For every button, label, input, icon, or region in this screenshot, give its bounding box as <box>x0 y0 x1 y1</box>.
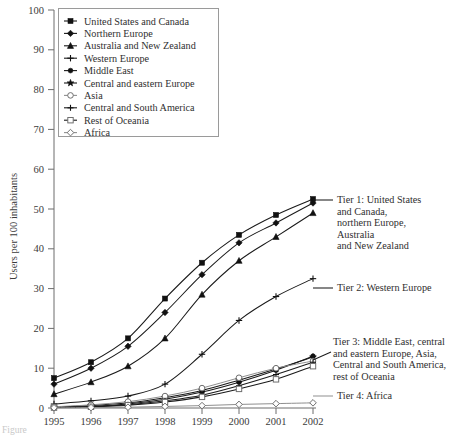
series-marker-united-states-and-canada <box>52 376 57 381</box>
annotation-tier2-line-0: Tier 2: Western Europe <box>337 282 432 293</box>
series-marker-united-states-and-canada <box>89 360 94 365</box>
legend-marker-6 <box>68 93 74 99</box>
y-tick-label: 100 <box>28 5 44 16</box>
series-marker-rest-of-oceania <box>273 377 278 382</box>
series-marker-australia-and-new-zealand <box>125 363 131 369</box>
y-tick-label: 0 <box>39 403 44 414</box>
x-axis-ticks: 19951996199719981999200020012002 <box>44 408 324 427</box>
x-tick-label: 2002 <box>303 416 324 427</box>
legend-marker-0 <box>68 19 73 24</box>
y-tick-label: 50 <box>34 204 45 215</box>
series-marker-northern-europe <box>88 365 94 371</box>
series-line-western-europe <box>54 279 313 404</box>
tier-annotations: Tier 1: United Statesand Canada,northern… <box>333 194 446 401</box>
legend-label-africa: Africa <box>84 127 110 138</box>
legend-label-northern-europe: Northern Europe <box>84 28 153 39</box>
legend-label-asia: Asia <box>84 90 103 101</box>
legend-label-united-states-and-canada: United States and Canada <box>84 16 189 27</box>
series-marker-rest-of-oceania <box>310 364 315 369</box>
legend-marker-4 <box>68 68 73 73</box>
annotation-tier3-line-3: rest of Oceania <box>333 371 395 382</box>
series-marker-united-states-and-canada <box>274 212 279 217</box>
x-tick-label: 1997 <box>118 416 139 427</box>
y-tick-label: 70 <box>34 124 45 135</box>
y-tick-label: 30 <box>34 283 45 294</box>
series-marker-australia-and-new-zealand <box>236 257 242 263</box>
caption: Figure <box>2 425 27 435</box>
figure-container: 0102030405060708090100 19951996199719981… <box>0 0 470 435</box>
x-tick-label: 1999 <box>192 416 213 427</box>
series-marker-australia-and-new-zealand <box>273 234 279 240</box>
legend-marker-8 <box>68 118 73 123</box>
legend-label-middle-east: Middle East <box>84 65 134 76</box>
series-marker-united-states-and-canada <box>126 336 131 341</box>
y-tick-label: 60 <box>34 164 45 175</box>
series-marker-africa <box>310 400 317 407</box>
y-tick-label: 80 <box>34 84 45 95</box>
y-axis-ticks: 0102030405060708090100 <box>28 5 54 414</box>
series-line-northern-europe <box>54 203 313 384</box>
legend-label-central-and-eastern-europe: Central and eastern Europe <box>84 78 195 89</box>
series-marker-asia <box>236 375 242 381</box>
annotation-tier3-line-2: Central and South America, <box>333 359 446 370</box>
annotation-tier1-line-2: northern Europe, <box>337 217 406 228</box>
line-chart: 0102030405060708090100 19951996199719981… <box>0 0 470 435</box>
annotation-tier3-line-0: Tier 3: Middle East, central <box>333 336 445 347</box>
series-marker-rest-of-oceania <box>236 386 241 391</box>
legend-label-australia-and-new-zealand: Australia and New Zealand <box>84 40 196 51</box>
annotation-tier3-line-1: and eastern Europe, Asia, <box>333 348 437 359</box>
annotation-tier4-line-0: Tier 4: Africa <box>337 390 393 401</box>
series-marker-united-states-and-canada <box>237 232 242 237</box>
legend: United States and CanadaNorthern EuropeA… <box>59 9 219 139</box>
annotation-tier1-line-4: and New Zealand <box>337 240 409 251</box>
x-tick-label: 1998 <box>155 416 176 427</box>
series-marker-northern-europe <box>51 381 57 387</box>
series-marker-asia <box>199 385 205 391</box>
series-marker-australia-and-new-zealand <box>310 210 316 216</box>
legend-label-central-and-south-america: Central and South America <box>84 102 195 113</box>
legend-label-western-europe: Western Europe <box>84 53 150 64</box>
annotation-tier1-line-3: Australia <box>337 229 375 240</box>
x-tick-label: 1996 <box>81 416 102 427</box>
series-marker-northern-europe <box>273 220 279 226</box>
x-tick-label: 1995 <box>44 416 65 427</box>
x-tick-label: 2000 <box>229 416 250 427</box>
series-marker-africa <box>273 400 280 407</box>
series-marker-asia <box>273 365 279 371</box>
series-marker-rest-of-oceania <box>199 394 204 399</box>
series-markers <box>51 197 317 412</box>
y-axis-label: Users per 100 inhabitants <box>8 173 19 280</box>
series-marker-united-states-and-canada <box>163 296 168 301</box>
series-marker-united-states-and-canada <box>200 260 205 265</box>
y-tick-label: 90 <box>34 44 45 55</box>
x-tick-label: 2001 <box>266 416 287 427</box>
y-tick-label: 10 <box>34 363 45 374</box>
y-tick-label: 40 <box>34 243 45 254</box>
y-tick-label: 20 <box>34 323 45 334</box>
annotation-tier1-line-0: Tier 1: United States <box>337 194 421 205</box>
series-line-rest-of-oceania <box>54 366 313 407</box>
legend-label-rest-of-oceania: Rest of Oceania <box>84 115 150 126</box>
annotation-tier1-line-1: and Canada, <box>337 206 387 217</box>
series-marker-africa <box>236 401 243 408</box>
series-line-united-states-and-canada <box>54 199 313 378</box>
